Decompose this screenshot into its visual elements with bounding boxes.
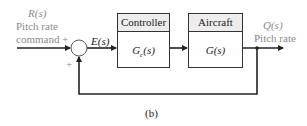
tf-main: G bbox=[132, 44, 140, 56]
feedback-plus-sign: + bbox=[66, 58, 72, 70]
output-description: Pitch rate bbox=[254, 32, 296, 44]
tf-arg: (s) bbox=[143, 44, 155, 56]
controller-transfer-function: Gc(s) bbox=[118, 32, 169, 73]
input-description-line1: Pitch rate bbox=[16, 20, 58, 32]
input-plus-sign: + bbox=[62, 33, 68, 45]
figure-caption: (b) bbox=[145, 107, 158, 119]
input-description-line2: command bbox=[16, 33, 59, 45]
aircraft-block: Aircraft G(s) bbox=[188, 13, 243, 68]
block-diagram: R(s) Pitch rate command + + E(s) Control… bbox=[0, 0, 307, 126]
aircraft-title: Aircraft bbox=[189, 14, 242, 32]
aircraft-transfer-function: G(s) bbox=[189, 32, 242, 68]
controller-title: Controller bbox=[118, 14, 169, 32]
input-signal-label: R(s) bbox=[28, 7, 46, 19]
output-signal-label: Q(s) bbox=[263, 19, 283, 31]
error-signal-label: E(s) bbox=[91, 35, 109, 47]
controller-block: Controller Gc(s) bbox=[117, 13, 170, 68]
